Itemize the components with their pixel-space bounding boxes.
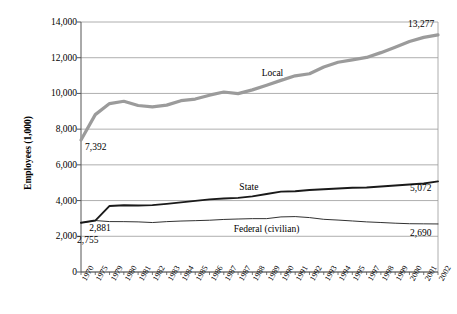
series-line-local <box>81 35 438 140</box>
y-axis-tick-label: 0 <box>72 267 77 277</box>
series-label-state: State <box>238 182 259 192</box>
y-axis-tick-label: 12,000 <box>51 53 77 63</box>
data-point-value-label: 13,277 <box>408 19 434 29</box>
data-point-value-label: 2,690 <box>410 228 431 238</box>
series-label-local: Local <box>261 68 285 78</box>
y-axis-tick-label: 2,000 <box>56 231 77 241</box>
y-axis-tick-label: 4,000 <box>56 196 77 206</box>
data-point-value-label: 5,072 <box>410 183 431 193</box>
series-line-state <box>81 181 438 222</box>
data-point-value-label: 2,755 <box>77 235 98 245</box>
data-point-value-label: 7,392 <box>85 142 106 152</box>
y-axis-tick-label: 10,000 <box>51 88 77 98</box>
data-point-value-label: 2,881 <box>89 223 110 233</box>
series-label-federal-civilian: Federal (civilian) <box>233 224 301 234</box>
y-axis-tick-label: 8,000 <box>56 124 77 134</box>
y-axis-tick-labels: 14,00012,00010,0008,0006,0004,0002,0000 <box>22 0 77 314</box>
y-axis-tick-label: 6,000 <box>56 160 77 170</box>
y-axis-tick-label: 14,000 <box>51 17 77 27</box>
chart-container: Employees (1,000) 14,00012,00010,0008,00… <box>0 0 457 314</box>
